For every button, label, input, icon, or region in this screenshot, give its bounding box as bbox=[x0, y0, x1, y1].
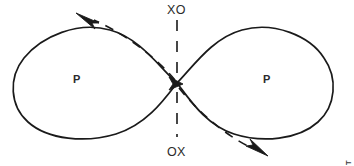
axis-label-ox: OX bbox=[167, 145, 186, 159]
credit-byline: BRIDGET MCKNIGHT bbox=[344, 160, 353, 166]
lower-right-dashed-path bbox=[179, 88, 252, 148]
left-loop-path bbox=[13, 27, 177, 139]
axis-label-xo: XO bbox=[167, 3, 186, 17]
lemniscate-drawing bbox=[0, 0, 354, 166]
lemniscate-figure: XO OX P P BRIDGET MCKNIGHT bbox=[0, 0, 354, 166]
right-loop-path bbox=[177, 27, 333, 139]
right-loop-label-p: P bbox=[263, 73, 270, 85]
lower-right-arrow-icon bbox=[246, 139, 268, 156]
left-loop-label-p: P bbox=[73, 73, 80, 85]
